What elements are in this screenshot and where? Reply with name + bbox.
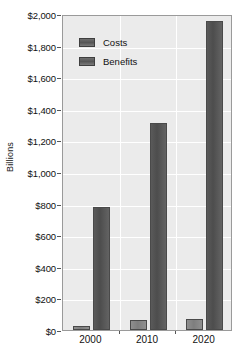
bar-chart: Billions $0$200$400$600$800$1,000$1,200$… (0, 0, 247, 357)
legend-swatch-benefits-icon (79, 57, 95, 66)
y-axis-tick-label: $1,600 (0, 73, 56, 84)
x-axis-tick-labels: 200020102020 (62, 334, 232, 354)
y-axis-tick-mark (57, 236, 61, 237)
y-axis-tick-label: $1,800 (0, 41, 56, 52)
y-axis-tick-label: $200 (0, 294, 56, 305)
y-axis-tick-mark (57, 299, 61, 300)
x-axis-tick-mark (175, 331, 176, 334)
y-axis-tick-mark (57, 110, 61, 111)
y-axis-tick-label: $1,200 (0, 136, 56, 147)
y-axis-tick-label: $2,000 (0, 10, 56, 21)
gridline-vertical (176, 16, 177, 330)
legend-item-benefits: Benefits (79, 54, 137, 69)
y-axis-tick-mark (57, 205, 61, 206)
bar-costs-2020 (186, 319, 203, 330)
y-axis-tick-mark (57, 15, 61, 16)
bar-costs-2000 (73, 326, 90, 330)
y-axis-tick-mark (57, 268, 61, 269)
legend-label-benefits: Benefits (103, 56, 137, 67)
legend-swatch-costs-icon (79, 38, 95, 47)
bar-benefits-2020 (206, 21, 223, 330)
legend-item-costs: Costs (79, 35, 137, 50)
y-axis-tick-mark (57, 141, 61, 142)
bar-benefits-2010 (150, 123, 167, 330)
bar-benefits-2000 (93, 207, 110, 330)
y-axis-tick-mark (57, 173, 61, 174)
y-axis-tick-mark (57, 47, 61, 48)
y-axis-tick-label: $400 (0, 262, 56, 273)
y-axis-tick-labels: $0$200$400$600$800$1,000$1,200$1,400$1,6… (0, 0, 56, 357)
x-axis-tick-mark (119, 331, 120, 334)
y-axis-tick-label: $1,000 (0, 168, 56, 179)
y-axis-tick-mark (57, 331, 61, 332)
x-axis-tick-label: 2010 (136, 334, 158, 345)
plot-area: Costs Benefits (62, 15, 232, 331)
bar-costs-2010 (130, 320, 147, 330)
y-axis-tick-label: $600 (0, 231, 56, 242)
y-axis-tick-label: $800 (0, 199, 56, 210)
y-axis-tick-label: $1,400 (0, 104, 56, 115)
x-axis-tick-label: 2020 (193, 334, 215, 345)
x-axis-tick-label: 2000 (79, 334, 101, 345)
y-axis-tick-mark (57, 78, 61, 79)
legend: Costs Benefits (79, 35, 137, 73)
legend-label-costs: Costs (103, 37, 127, 48)
y-axis-tick-label: $0 (0, 326, 56, 337)
